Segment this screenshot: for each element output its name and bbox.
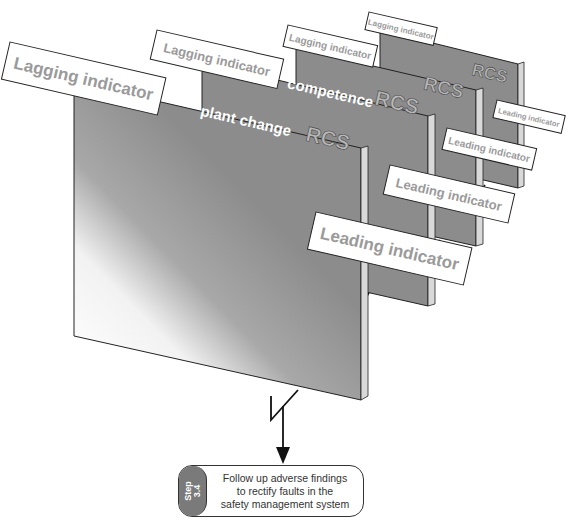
step-tab: Step 3.4 bbox=[179, 466, 207, 516]
rcs-layers-diagram: Lagging indicator RCS Leading indicator … bbox=[0, 0, 578, 528]
step-text-line-2: to rectify faults in the bbox=[221, 485, 349, 498]
step-3-4-box: Step 3.4 Follow up adverse findings to r… bbox=[178, 465, 364, 517]
step-description: Follow up adverse findings to rectify fa… bbox=[211, 466, 359, 516]
step-text-line-3: safety management system bbox=[221, 498, 349, 511]
step-text-line-1: Follow up adverse findings bbox=[221, 472, 349, 485]
arrow-head-icon bbox=[276, 447, 290, 464]
down-arrow-connector bbox=[271, 390, 298, 448]
step-number: 3.4 bbox=[193, 481, 202, 501]
